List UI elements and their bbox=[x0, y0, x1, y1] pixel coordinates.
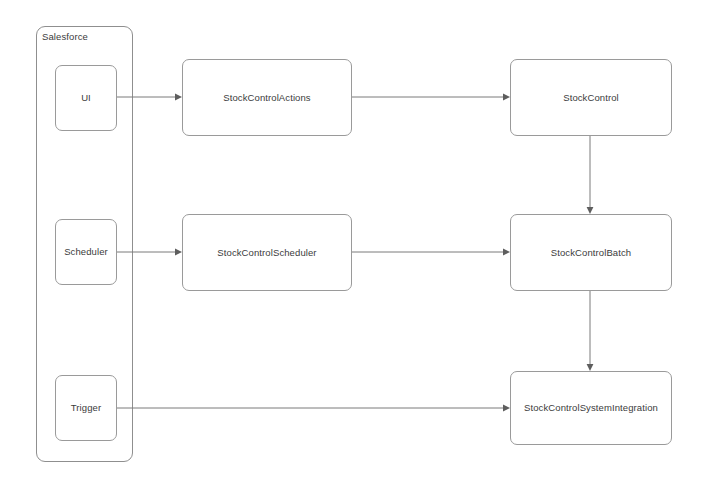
node-label: StockControlActions bbox=[223, 92, 310, 103]
node-trigger[interactable]: Trigger bbox=[55, 375, 117, 441]
node-integration[interactable]: StockControlSystemIntegration bbox=[510, 371, 672, 445]
edge-actions-to-stockcontrol bbox=[352, 94, 510, 101]
node-label: StockControlBatch bbox=[551, 247, 631, 258]
node-label: StockControl bbox=[563, 92, 619, 103]
node-ui[interactable]: UI bbox=[55, 65, 117, 131]
node-sched_class[interactable]: StockControlScheduler bbox=[182, 214, 352, 291]
node-scheduler[interactable]: Scheduler bbox=[55, 219, 117, 285]
node-batch[interactable]: StockControlBatch bbox=[510, 214, 672, 291]
node-label: StockControlScheduler bbox=[217, 247, 316, 258]
arrow-head-icon bbox=[503, 94, 510, 101]
node-label: Scheduler bbox=[64, 246, 108, 257]
arrow-head-icon bbox=[587, 364, 594, 371]
arrow-head-icon bbox=[503, 405, 510, 412]
node-label: Trigger bbox=[71, 402, 101, 413]
edge-batch-to-integration bbox=[587, 291, 594, 371]
diagram-canvas: Salesforce UISchedulerTriggerStockContro… bbox=[0, 0, 706, 485]
node-label: StockControlSystemIntegration bbox=[524, 402, 658, 413]
node-stockcontrol[interactable]: StockControl bbox=[510, 59, 672, 136]
edge-class-to-batch bbox=[352, 249, 510, 256]
node-actions[interactable]: StockControlActions bbox=[182, 59, 352, 136]
edge-trigger-to-integration bbox=[117, 405, 510, 412]
edge-stockcontrol-to-batch bbox=[587, 136, 594, 214]
group-salesforce-label: Salesforce bbox=[42, 31, 88, 42]
arrow-head-icon bbox=[503, 249, 510, 256]
arrow-head-icon bbox=[587, 207, 594, 214]
arrow-head-icon bbox=[175, 249, 182, 256]
arrow-head-icon bbox=[175, 94, 182, 101]
node-label: UI bbox=[81, 92, 91, 103]
